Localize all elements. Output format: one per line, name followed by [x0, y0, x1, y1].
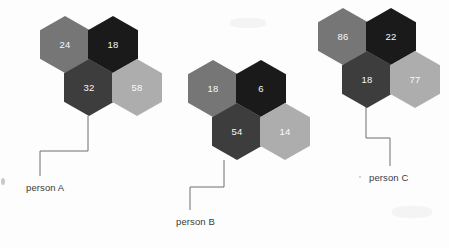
hex-cell-value: 32 [84, 83, 95, 93]
cluster-label: person B [176, 216, 215, 227]
hex-cell-value: 58 [132, 83, 143, 93]
hex-cell-value: 86 [338, 32, 349, 42]
hex-cell-value: 18 [208, 84, 219, 94]
diagram-canvas: 24183258186541486221877 person Aperson B… [0, 0, 449, 248]
hex-cell-value: 6 [258, 84, 263, 94]
cluster-label: person A [26, 182, 64, 193]
hex-cell-value: 22 [386, 32, 397, 42]
hexagon-layer: 24183258186541486221877 [0, 0, 449, 248]
hex-cell-value: 77 [410, 75, 421, 85]
hex-cell-value: 24 [60, 40, 71, 50]
cluster-label: person C [369, 172, 408, 183]
hex-cell-value: 54 [232, 127, 243, 137]
hex-cell-value: 14 [280, 127, 291, 137]
hex-cell-value: 18 [108, 40, 119, 50]
hex-cell-value: 18 [362, 75, 373, 85]
